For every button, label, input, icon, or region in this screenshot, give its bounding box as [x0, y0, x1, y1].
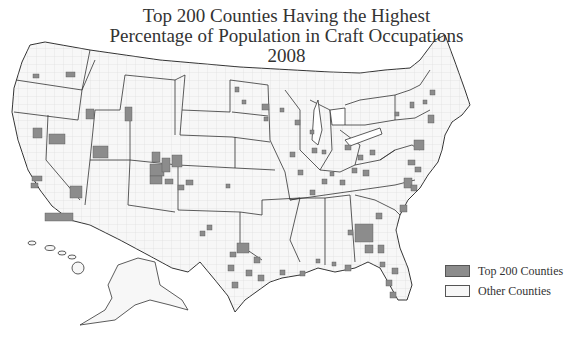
title-line-3: 2008: [0, 46, 573, 66]
map-title: Top 200 Counties Having the Highest Perc…: [0, 6, 573, 66]
legend-item-other: Other Counties: [445, 282, 563, 300]
legend: Top 200 Counties Other Counties: [445, 262, 563, 302]
legend-swatch-other: [445, 285, 470, 297]
legend-swatch-top-200: [445, 265, 470, 277]
legend-item-top-200: Top 200 Counties: [445, 262, 563, 280]
legend-label: Other Counties: [478, 284, 551, 299]
title-line-2: Percentage of Population in Craft Occupa…: [0, 26, 573, 46]
hawaii-inset: [28, 241, 84, 274]
legend-label: Top 200 Counties: [478, 264, 563, 279]
title-line-1: Top 200 Counties Having the Highest: [0, 6, 573, 26]
